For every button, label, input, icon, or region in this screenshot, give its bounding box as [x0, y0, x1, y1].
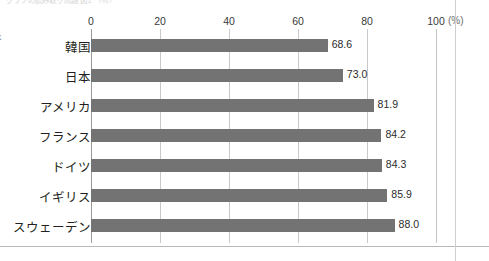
x-axis-tick-label: 80 [361, 14, 373, 28]
bar-value-label: 84.2 [385, 127, 405, 142]
bar [91, 219, 395, 232]
category-label-text: ドイツ [0, 160, 91, 175]
clipped-top-caption: グラフの読み取り問題 図1 （％） [6, 0, 306, 5]
bar [91, 189, 387, 202]
x-axis-tick-label: 0 [88, 14, 94, 28]
category-label-text: フランス [0, 130, 91, 145]
category-label: フランス [0, 130, 91, 145]
category-label: アメリカ [0, 100, 91, 115]
bar-value-label: 81.9 [378, 97, 398, 112]
category-label: スウェーデン [0, 220, 91, 235]
category-label-text: スウェーデン [0, 220, 91, 235]
bar-row: アメリカ81.9 [0, 91, 489, 121]
category-label-text: アメリカ [0, 100, 91, 115]
bar [91, 159, 382, 172]
bar [91, 39, 328, 52]
x-axis-tick-label: 100 [427, 14, 445, 28]
category-label: 日本 [0, 70, 91, 85]
x-axis: 020406080100(%) [0, 14, 489, 30]
bar-row: フランス84.2 [0, 121, 489, 151]
category-label-text: 日本 [0, 70, 91, 85]
bar-value-label: 73.0 [347, 67, 367, 82]
bar-row: かんこく韓国68.6 [0, 31, 489, 61]
category-label-text: 韓国 [0, 40, 91, 55]
category-label: ドイツ [0, 160, 91, 175]
category-label: イギリス [0, 190, 91, 205]
category-label-furigana: かんこく [0, 34, 91, 40]
x-axis-tick-label: 40 [223, 14, 235, 28]
chart-right-border [455, 0, 456, 261]
bar-row: ドイツ84.3 [0, 151, 489, 181]
chart-bottom-border [0, 246, 489, 247]
bar-value-label: 84.3 [386, 157, 406, 172]
bar [91, 129, 381, 142]
bar-row: 日本73.0 [0, 61, 489, 91]
bar [91, 69, 343, 82]
bar-rows: かんこく韓国68.6日本73.0アメリカ81.9フランス84.2ドイツ84.3イ… [0, 31, 489, 243]
bar-row: イギリス85.9 [0, 181, 489, 211]
category-label-text: イギリス [0, 190, 91, 205]
bar-row: スウェーデン88.0 [0, 211, 489, 241]
bar-chart: グラフの読み取り問題 図1 （％） 020406080100(%) かんこく韓国… [0, 0, 489, 261]
bar-value-label: 68.6 [332, 37, 352, 52]
x-axis-tick-label: 20 [154, 14, 166, 28]
category-label: かんこく韓国 [0, 34, 91, 56]
bar-value-label: 88.0 [399, 217, 419, 232]
bar-value-label: 85.9 [391, 187, 411, 202]
x-axis-tick-label: 60 [292, 14, 304, 28]
bar [91, 99, 374, 112]
